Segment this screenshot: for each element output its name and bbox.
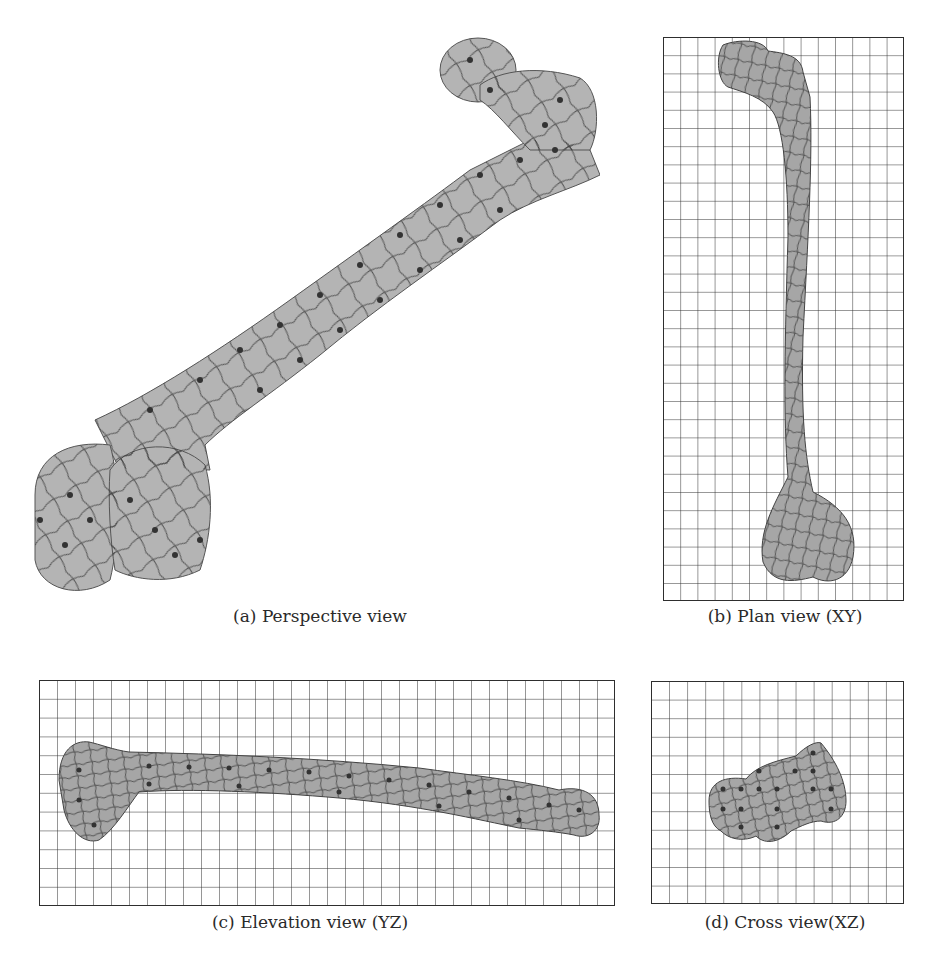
cross-view-grid: [651, 681, 904, 904]
femur-perspective-render: [0, 0, 600, 600]
elevation-view-grid: [39, 680, 615, 906]
elevation-view-panel: [39, 680, 615, 906]
plan-view-grid: [663, 37, 904, 601]
caption-d: (d) Cross view(XZ): [640, 912, 930, 932]
femur-body: [35, 38, 600, 590]
perspective-view-panel: [0, 0, 600, 600]
cross-view-panel: [651, 681, 904, 904]
caption-c: (c) Elevation view (YZ): [100, 912, 520, 932]
plan-view-panel: [663, 37, 904, 601]
caption-b: (b) Plan view (XY): [640, 606, 930, 626]
caption-a: (a) Perspective view: [170, 606, 470, 626]
